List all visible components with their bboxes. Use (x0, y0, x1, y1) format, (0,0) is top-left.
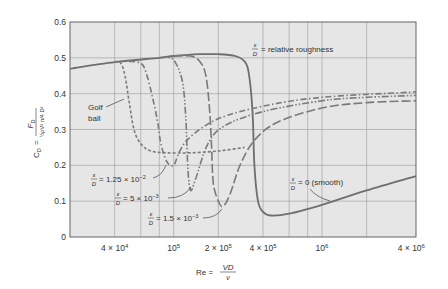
frac-den: D (291, 185, 296, 191)
x-tick-label: 4 × 106 (398, 243, 426, 253)
y-axis-label: CD = FD ½ρV² π/4 D² (26, 107, 45, 158)
y-label-eq: = (32, 140, 41, 145)
annotation-text: = 1.25 × 10−2 (99, 174, 146, 184)
frac-num: ε (150, 211, 153, 217)
y-tick-labels: 00.10.20.30.40.50.6 (54, 17, 66, 242)
x-tick-labels: 4 × 1041052 × 1054 × 1051064 × 106 (101, 243, 426, 253)
y-label-numerator: FD (26, 120, 36, 129)
x-tick-label: 4 × 104 (101, 243, 129, 253)
annotation-text: = 1.5 × 10−3 (156, 213, 198, 223)
frac-den: D (149, 220, 154, 226)
y-label-denominator: ½ρV² π/4 D² (39, 107, 45, 138)
x-tick-label: 4 × 105 (249, 243, 277, 253)
frac-den: D (92, 181, 97, 187)
frac-den: D (253, 51, 258, 57)
frac-num: ε (292, 176, 295, 182)
golf-label-line2: ball (88, 114, 101, 123)
y-label-lhs: CD (32, 148, 42, 158)
y-tick-label: 0.2 (54, 160, 66, 170)
x-label-denominator: ν (226, 274, 230, 281)
x-axis-label: Re = VD ν (196, 263, 236, 281)
y-tick-label: 0.3 (54, 125, 66, 135)
frac-num: ε (254, 42, 257, 48)
x-label-lhs: Re = (196, 268, 213, 277)
frac-num: ε (117, 191, 120, 197)
y-tick-label: 0.1 (54, 196, 66, 206)
y-tick-label: 0.6 (54, 17, 66, 27)
frac-den: D (116, 200, 121, 206)
y-tick-label: 0.4 (54, 89, 66, 99)
y-tick-label: 0 (61, 232, 66, 242)
x-tick-label: 105 (167, 243, 180, 253)
x-tick-label: 106 (316, 243, 329, 253)
annotation-text: = 0 (smooth) (298, 178, 343, 187)
golf-label-line1: Golf (88, 103, 103, 112)
y-tick-label: 0.5 (54, 53, 66, 63)
annotation-text: = relative roughness (261, 45, 333, 54)
drag-coefficient-chart: 00.10.20.30.40.50.6 4 × 1041052 × 1054 ×… (0, 0, 448, 289)
frac-num: ε (93, 172, 96, 178)
x-tick-label: 2 × 105 (205, 243, 233, 253)
x-label-numerator: VD (222, 263, 233, 272)
